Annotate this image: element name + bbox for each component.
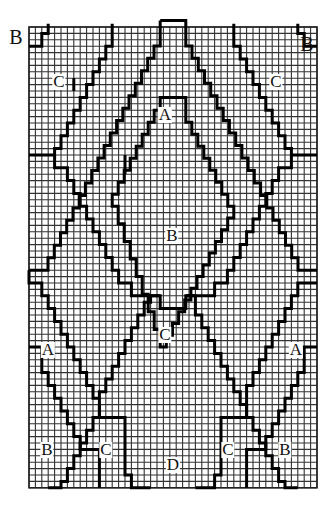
label-a-top: A xyxy=(158,107,172,123)
label-b-bottom-left: B xyxy=(40,442,53,458)
label-c-bottom-left: C xyxy=(99,442,112,458)
label-corner-b-right: B xyxy=(299,36,314,52)
chart-background xyxy=(0,0,333,510)
label-a-left: A xyxy=(41,342,55,358)
label-a-right: A xyxy=(289,342,303,358)
label-c-top-left: C xyxy=(52,74,65,90)
label-c-middle: C xyxy=(158,327,171,343)
label-c-top-right: C xyxy=(269,74,282,90)
label-b-middle: B xyxy=(165,228,178,244)
label-d-bottom: D xyxy=(166,457,180,473)
label-corner-b-left: B xyxy=(8,29,23,45)
label-b-bottom-right: B xyxy=(278,442,291,458)
stitch-chart xyxy=(0,0,333,510)
label-c-bottom-right: C xyxy=(221,442,234,458)
